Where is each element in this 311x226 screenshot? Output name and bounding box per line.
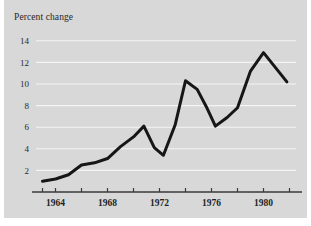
x-tick-label: 1976 bbox=[202, 198, 221, 208]
x-tick-label: 1968 bbox=[98, 198, 117, 208]
x-tick-label: 1972 bbox=[150, 198, 169, 208]
x-axis-tick-labels: 19641968197219761980 bbox=[46, 198, 273, 208]
y-tick-label: 12 bbox=[20, 58, 29, 68]
data-series-line bbox=[43, 53, 287, 182]
x-tick-label: 1980 bbox=[254, 198, 273, 208]
y-tick-label: 10 bbox=[20, 79, 30, 89]
x-tick-label: 1964 bbox=[46, 198, 65, 208]
y-tick-label: 2 bbox=[25, 166, 30, 176]
y-tick-label: 4 bbox=[25, 144, 30, 154]
y-tick-label: 6 bbox=[25, 122, 30, 132]
line-chart: 2468101214 19641968197219761980 bbox=[4, 0, 307, 218]
y-tick-label: 8 bbox=[25, 101, 30, 111]
x-axis bbox=[32, 188, 302, 192]
chart-figure: Percent change 2468101214 19641968197219… bbox=[4, 0, 307, 218]
y-axis-tick-labels: 2468101214 bbox=[20, 36, 30, 176]
y-tick-label: 14 bbox=[20, 36, 30, 46]
